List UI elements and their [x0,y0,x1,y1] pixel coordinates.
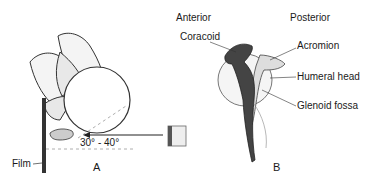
film-label: Film [12,158,31,169]
glenoid-fossa-leader [262,90,296,106]
humeral-head-circle-a [64,67,130,133]
coracoid-leader [210,42,236,52]
anterior-label: Anterior [176,12,211,23]
angle-label: 30° - 40° [80,137,119,148]
scapula-axial-view [50,129,73,140]
panel-a-label: A [93,162,100,173]
diagram-artwork [0,0,369,183]
scapula-lateral-illustration [218,44,285,162]
humeral-head-label: Humeral head [297,71,360,82]
acromion-label: Acromion [297,40,339,51]
glenoid-fossa-label: Glenoid fossa [297,100,358,111]
panel-b-label: B [273,162,280,173]
humeral-head-leader [270,77,296,78]
posterior-label: Posterior [290,12,330,23]
film-cassette [42,98,46,173]
acromion-leader [270,48,296,60]
shoulder-radiography-diagram: Film 30° - 40° A Anterior Posterior Cora… [0,0,369,183]
coracoid-label: Coracoid [180,31,220,42]
